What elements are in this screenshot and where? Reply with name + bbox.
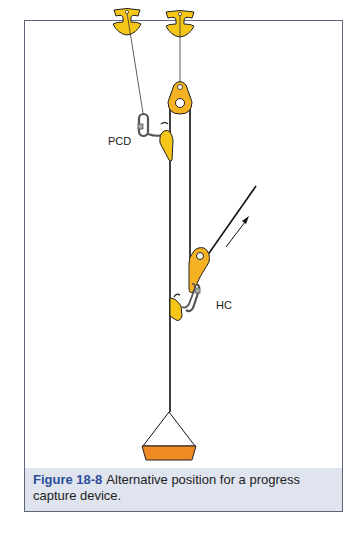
load-icon (142, 412, 196, 460)
rope-system-diagram (0, 0, 364, 533)
figure-number: Figure 18-8 (33, 472, 102, 487)
top-pulley-icon (168, 82, 192, 115)
anchor-left-icon (113, 9, 141, 36)
pcd-cam-icon (160, 130, 173, 161)
figure-caption: Figure 18-8Alternative position for a pr… (24, 468, 343, 512)
pcd-label: PCD (108, 135, 131, 147)
hc-label: HC (216, 299, 232, 311)
hc-cam-icon (170, 298, 182, 321)
pull-direction-arrow-icon (226, 216, 249, 247)
